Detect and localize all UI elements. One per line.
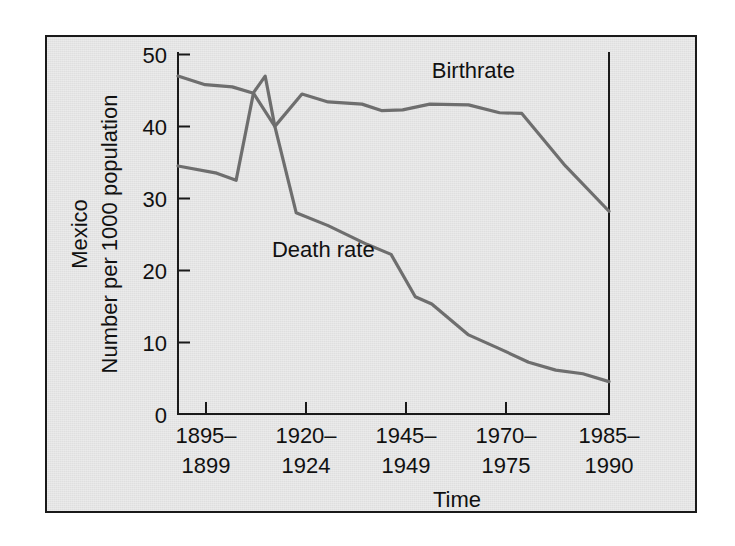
x-tick-label-1945-top: 1945– bbox=[375, 423, 437, 448]
x-tick-label-1949-bottom: 1949 bbox=[382, 453, 431, 478]
y-axis-title-region: Mexico bbox=[67, 199, 92, 269]
x-tick-marks bbox=[206, 402, 506, 414]
series-line-death-rate bbox=[178, 76, 609, 382]
y-tick-label-20: 20 bbox=[143, 259, 167, 284]
chart-panel: 50 40 30 20 10 0 1895– 1899 1920– 1924 bbox=[45, 35, 697, 513]
y-tick-labels: 50 40 30 20 10 0 bbox=[143, 43, 167, 428]
chart-plot-area: 50 40 30 20 10 0 1895– 1899 1920– 1924 bbox=[47, 37, 695, 511]
y-tick-marks bbox=[178, 55, 190, 343]
x-tick-labels: 1895– 1899 1920– 1924 1945– 1949 1970– 1… bbox=[175, 423, 640, 478]
x-tick-label-1990-bottom: 1990 bbox=[585, 453, 634, 478]
y-tick-label-30: 30 bbox=[143, 187, 167, 212]
x-tick-label-1975-bottom: 1975 bbox=[482, 453, 531, 478]
y-tick-label-50: 50 bbox=[143, 43, 167, 68]
x-tick-label-1924-bottom: 1924 bbox=[282, 453, 331, 478]
y-axis-title-units: Number per 1000 population bbox=[97, 95, 122, 374]
x-tick-label-1985-top: 1985– bbox=[578, 423, 640, 448]
y-tick-label-0: 0 bbox=[155, 403, 167, 428]
y-tick-label-10: 10 bbox=[143, 331, 167, 356]
x-tick-label-1970-top: 1970– bbox=[475, 423, 537, 448]
x-tick-label-1895-top: 1895– bbox=[175, 423, 237, 448]
figure-root: 50 40 30 20 10 0 1895– 1899 1920– 1924 bbox=[0, 0, 735, 546]
series-label-birthrate: Birthrate bbox=[432, 58, 515, 83]
x-tick-label-1920-top: 1920– bbox=[275, 423, 337, 448]
series-label-death-rate: Death rate bbox=[272, 237, 375, 262]
x-tick-label-1899-bottom: 1899 bbox=[182, 453, 231, 478]
x-axis-title: Time bbox=[433, 487, 481, 511]
y-tick-label-40: 40 bbox=[143, 115, 167, 140]
